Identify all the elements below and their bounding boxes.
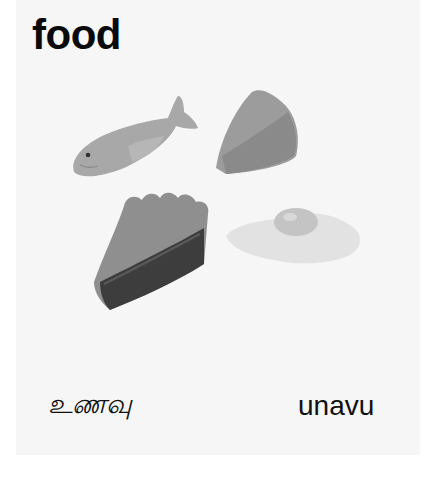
fish-icon (73, 96, 198, 176)
word-native: உணவு (48, 388, 132, 423)
fried-egg-icon (226, 208, 360, 263)
cheese-wedge-icon (216, 90, 298, 174)
pie-slice-icon (94, 193, 208, 310)
word-transliteration: unavu (298, 390, 374, 422)
